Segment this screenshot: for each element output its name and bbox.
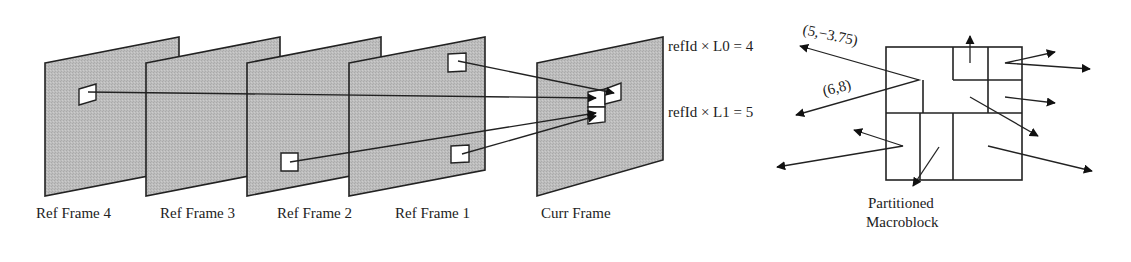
label-macroblock-line2: Macroblock [866, 214, 939, 230]
label-ref-frame-3: Ref Frame 3 [160, 205, 235, 221]
label-macroblock-line1: Partitioned [868, 195, 934, 211]
label-ref-l0: refId × L0 = 4 [668, 38, 754, 54]
label-mv0: (5,−3.75) [801, 21, 859, 49]
ref-frame-1 [349, 37, 485, 196]
ref1-bottom-block [451, 145, 469, 163]
diagram-canvas: Ref Frame 4 Ref Frame 3 Ref Frame 2 Ref … [0, 0, 1131, 262]
label-curr-frame: Curr Frame [541, 205, 611, 221]
label-ref-frame-2: Ref Frame 2 [277, 205, 352, 221]
macroblock-motion-vectors [777, 36, 1092, 186]
curr-frame [537, 37, 663, 196]
label-ref-frame-4: Ref Frame 4 [36, 205, 111, 221]
ref2-block [281, 153, 298, 171]
label-ref-frame-1: Ref Frame 1 [395, 205, 470, 221]
partitioned-macroblock [886, 47, 1022, 180]
label-mv1: (6,8) [821, 76, 853, 99]
label-ref-l1: refId × L1 = 5 [668, 104, 753, 120]
curr-block-c [588, 107, 605, 124]
